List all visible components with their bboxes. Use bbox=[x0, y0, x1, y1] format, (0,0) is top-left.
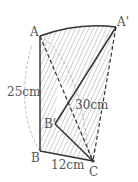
label-C: C bbox=[89, 166, 98, 178]
label-A: A bbox=[30, 26, 39, 38]
label-length-AB: 25cm bbox=[7, 86, 40, 98]
label-A-prime: A' bbox=[117, 16, 129, 28]
label-B: B bbox=[31, 152, 40, 164]
rotation-diagram: A A' B B' C 25cm 30cm 12cm bbox=[0, 0, 138, 182]
label-length-BC: 12cm bbox=[51, 159, 84, 171]
point-C-dot bbox=[92, 160, 95, 163]
label-B-prime: B' bbox=[44, 118, 56, 130]
label-length-AC: 30cm bbox=[75, 99, 108, 111]
